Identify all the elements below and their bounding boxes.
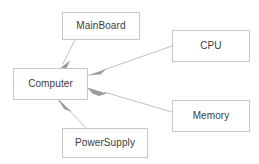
arrowhead-aggregation — [86, 69, 106, 76]
node-cpu-label: CPU — [200, 41, 221, 51]
edge-cpu-computer — [86, 46, 172, 76]
node-powersupply-label: PowerSupply — [75, 138, 135, 148]
edge-line — [66, 107, 86, 128]
node-computer-label: Computer — [28, 79, 73, 89]
arrowhead-aggregation — [87, 88, 107, 97]
edge-line — [102, 46, 172, 71]
edge-line — [63, 40, 76, 65]
diagram-canvas: MainBoard Computer CPU Memory PowerSuppl… — [0, 0, 259, 164]
node-memory-label: Memory — [193, 111, 230, 121]
node-mainboard[interactable]: MainBoard — [62, 12, 140, 40]
node-memory[interactable]: Memory — [172, 100, 250, 132]
node-mainboard-label: MainBoard — [76, 21, 125, 31]
node-cpu[interactable]: CPU — [172, 30, 250, 62]
edge-line — [104, 92, 172, 112]
edge-powersupply-computer — [56, 97, 86, 128]
node-computer[interactable]: Computer — [13, 68, 88, 100]
node-powersupply[interactable]: PowerSupply — [62, 128, 148, 158]
edge-memory-computer — [87, 88, 172, 113]
